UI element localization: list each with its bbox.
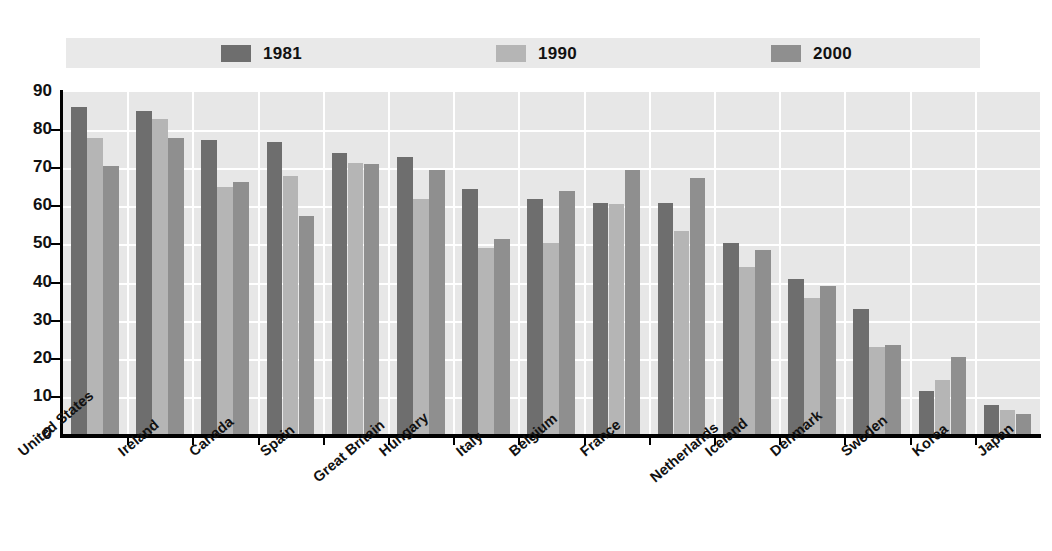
x-axis-tick [192,438,194,445]
y-axis-tick-label: 10 [12,387,52,404]
x-axis-tick [844,438,846,445]
bar [755,250,771,435]
gridline-vertical [127,92,129,435]
gridline-vertical [714,92,716,435]
y-axis-tick-label: 80 [12,120,52,137]
plot-area [62,92,1040,435]
y-axis-tick [51,396,61,398]
bar [152,119,168,435]
bar [820,286,836,435]
legend-label: 1981 [263,45,302,62]
y-axis-tick-label: 20 [12,349,52,366]
bar [283,176,299,435]
bar [739,267,755,435]
gridline-vertical [779,92,781,435]
legend-item[interactable]: 2000 [771,38,852,68]
bar [658,203,674,435]
bar [625,170,641,435]
bar [609,204,625,435]
gridline-vertical [844,92,846,435]
y-axis-tick-label: 30 [12,311,52,328]
bar [299,216,315,435]
bar [690,178,706,435]
bar [348,163,364,435]
legend-label: 2000 [813,45,852,62]
bar [593,203,609,435]
x-axis-tick [975,438,977,445]
gridline-vertical [975,92,977,435]
bar [267,142,283,435]
bar [429,170,445,435]
legend-label: 1990 [538,45,577,62]
y-axis-tick [51,167,61,169]
legend-swatch-icon [496,45,526,62]
bar [723,243,739,435]
y-axis-tick-label: 50 [12,234,52,251]
y-axis-tick [51,205,61,207]
y-axis-tick [51,243,61,245]
bar [543,243,559,435]
bar [478,248,494,435]
bar [364,164,380,435]
bar [397,157,413,435]
x-axis-tick [453,438,455,445]
bar [233,182,249,435]
legend-swatch-icon [771,45,801,62]
y-axis-tick-label: 70 [12,158,52,175]
bar [201,140,217,435]
x-axis-tick [649,438,651,445]
gridline-vertical [649,92,651,435]
gridline-vertical [258,92,260,435]
y-axis-tick-label: 40 [12,273,52,290]
chart-figure: 198119902000 0102030405060708090 United … [0,0,1052,551]
y-axis-tick [51,358,61,360]
x-axis-tick [910,438,912,445]
bar [462,189,478,435]
gridline-vertical [192,92,194,435]
bar [853,309,869,435]
bar [674,231,690,435]
bar [413,199,429,435]
y-axis-tick [51,129,61,131]
bar [71,107,87,435]
bar [332,153,348,435]
x-axis-tick [388,438,390,445]
gridline-vertical [518,92,520,435]
legend-swatch-icon [221,45,251,62]
y-axis-tick-label: 90 [12,82,52,99]
bar [788,279,804,435]
legend-item[interactable]: 1981 [221,38,302,68]
y-axis-tick-label: 60 [12,196,52,213]
gridline-vertical [323,92,325,435]
x-axis-tick [518,438,520,445]
x-axis-tick [584,438,586,445]
y-axis-tick [51,320,61,322]
chart-legend: 198119902000 [66,38,980,68]
bar [559,191,575,435]
gridline-vertical [910,92,912,435]
x-axis-tick [779,438,781,445]
y-axis-line [60,90,63,437]
bar [168,138,184,435]
y-axis-tick [51,282,61,284]
gridline-vertical [388,92,390,435]
bar [494,239,510,435]
x-axis-tick [127,438,129,445]
bar [1016,414,1032,435]
x-axis-tick [714,438,716,445]
bar [951,357,967,435]
gridline-vertical [453,92,455,435]
bar [136,111,152,435]
bar [217,187,233,435]
gridline-vertical [584,92,586,435]
y-axis-labels: 0102030405060708090 [0,0,52,551]
bar [527,199,543,435]
gridline-horizontal [62,130,1040,132]
bar [103,166,119,435]
x-axis-tick [258,438,260,445]
x-axis-tick [323,438,325,445]
legend-item[interactable]: 1990 [496,38,577,68]
